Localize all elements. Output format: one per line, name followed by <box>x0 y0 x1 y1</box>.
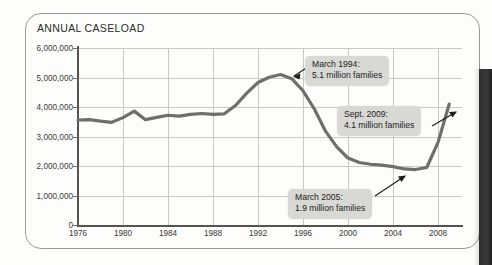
callout-peak-1994: March 1994: 5.1 million families <box>305 56 389 86</box>
callout-march-2005-line2: 1.9 million families <box>295 203 365 214</box>
callout-sept-2009-line1: Sept. 2009: <box>344 109 388 119</box>
scanned-page: ANNUAL CASELOAD 6,000,000 5,000,000 4,00… <box>0 0 492 265</box>
page-gutter-edge <box>479 69 492 265</box>
callout-march-2005: March 2005: 1.9 million families <box>288 189 372 219</box>
callout-sept-2009: Sept. 2009: 4.1 million families <box>337 106 421 136</box>
arrowhead-march-2005 <box>398 176 406 183</box>
callout-peak-1994-line1: March 1994: <box>312 59 360 69</box>
callout-peak-1994-line2: 5.1 million families <box>312 70 382 81</box>
arrowhead-sept-2009 <box>449 112 457 118</box>
callout-sept-2009-line2: 4.1 million families <box>344 120 414 131</box>
callout-march-2005-line1: March 2005: <box>295 192 343 202</box>
